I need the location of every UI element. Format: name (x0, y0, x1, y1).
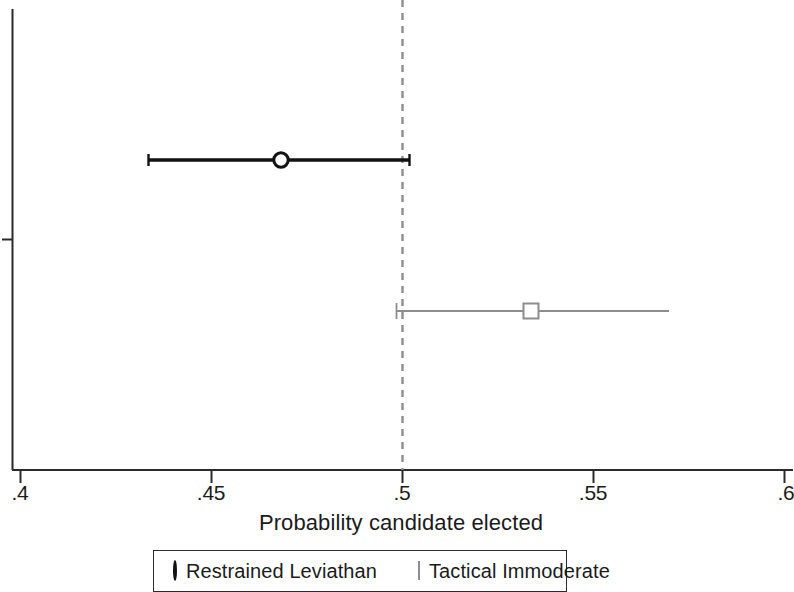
circle-marker-icon (173, 562, 177, 580)
legend-label-restrained-leviathan: Restrained Leviathan (186, 560, 377, 583)
legend: Restrained Leviathan Tactical Immoderate (153, 550, 567, 592)
legend-label-tactical-immoderate: Tactical Immoderate (429, 560, 610, 583)
legend-entry-restrained-leviathan[interactable]: Restrained Leviathan (173, 560, 377, 583)
series-restrained-leviathan (148, 153, 410, 167)
point-estimate-marker-1 (274, 153, 288, 167)
x-tick-label-3: .55 (579, 481, 607, 505)
square-marker-icon (418, 562, 420, 580)
series-tactical-immoderate (396, 303, 669, 319)
x-tick-label-0: .4 (12, 481, 29, 505)
legend-entry-tactical-immoderate[interactable]: Tactical Immoderate (418, 560, 610, 583)
x-tick-label-1: .45 (197, 481, 225, 505)
point-estimate-marker-2 (524, 304, 539, 319)
x-axis-title: Probability candidate elected (259, 510, 543, 536)
x-tick-label-2: .5 (394, 481, 411, 505)
x-tick-label-4: .6 (778, 481, 794, 505)
